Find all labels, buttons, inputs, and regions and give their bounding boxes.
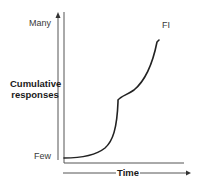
y-direction-arrowhead-icon	[56, 12, 61, 18]
y-tick-few: Few	[34, 151, 51, 161]
y-axis-label-line1: Cumulative	[10, 78, 60, 89]
x-axis-label: Time	[116, 168, 140, 178]
y-tick-many: Many	[29, 18, 51, 28]
y-axis-label-line2: responses	[10, 89, 60, 100]
fi-curve	[64, 40, 159, 158]
y-axis-label: Cumulative responses	[10, 78, 60, 100]
series-label-fi: FI	[162, 20, 170, 30]
time-arrowhead-icon	[186, 171, 191, 176]
